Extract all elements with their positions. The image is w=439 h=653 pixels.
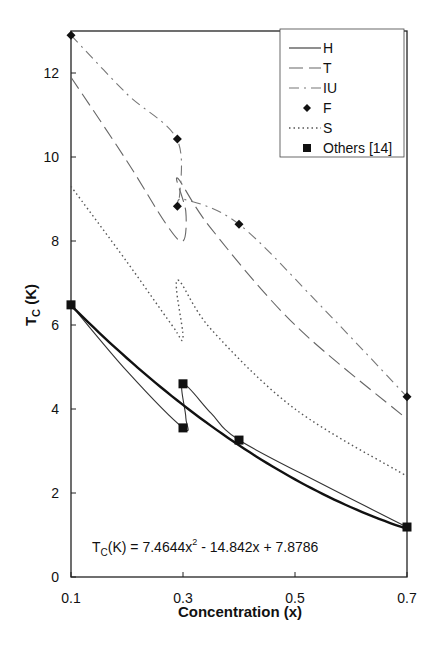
y-tick-label: 0 <box>51 569 59 585</box>
chart: 0246810120.10.30.50.7 HTIUFSOthers [14] … <box>0 0 439 653</box>
y-tick-label: 2 <box>51 485 59 501</box>
y-axis-title: TC (K) <box>22 284 42 326</box>
others-marker <box>179 379 188 388</box>
y-tick-label: 4 <box>51 401 59 417</box>
legend-label: F <box>323 100 332 116</box>
y-tick-label: 6 <box>51 317 59 333</box>
f-marker <box>173 134 182 143</box>
f-marker <box>235 220 244 229</box>
legend-label: IU <box>323 80 337 96</box>
y-tick-label: 10 <box>43 149 59 165</box>
x-axis-title: Concentration (x) <box>178 603 302 620</box>
f-marker <box>173 202 182 211</box>
fit-curve <box>71 305 407 529</box>
y-tick-label: 12 <box>43 65 59 81</box>
others-marker <box>179 423 188 432</box>
x-tick-label: 0.7 <box>397 590 417 606</box>
legend-label: Others [14] <box>323 140 392 156</box>
legend: HTIUFSOthers [14] <box>280 29 404 157</box>
x-tick-label: 0.1 <box>61 590 81 606</box>
legend-label: H <box>323 40 333 56</box>
square-icon <box>303 144 311 152</box>
legend-label: S <box>323 120 332 136</box>
fit-equation: TC(K) = 7.4644x2 - 14.842x + 7.8786 <box>92 537 319 558</box>
series-h-line <box>71 305 407 527</box>
y-tick-label: 8 <box>51 233 59 249</box>
series-s-line <box>71 186 407 476</box>
legend-label: T <box>323 60 332 76</box>
